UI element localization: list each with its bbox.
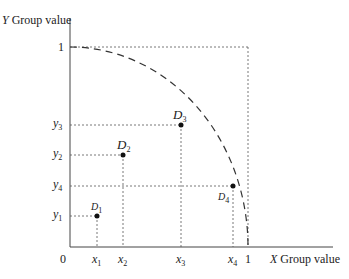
x2-sub: 2 [123,259,127,268]
y3-label: y3 [53,117,62,134]
d1-sub: 1 [98,206,102,215]
y1-label: y1 [53,208,62,225]
d2-name: D [117,137,126,152]
d2-label: D2 [117,139,130,156]
d4-point [231,184,236,189]
x1-label: x1 [92,253,101,270]
d3-label: D3 [173,109,186,126]
d1-label: D1 [91,201,102,217]
x-axis-text: Group value [277,252,340,266]
d2-sub: 2 [126,145,130,154]
d4-sub: 4 [225,196,229,205]
x2-label: x2 [118,253,127,270]
x-one-label: 1 [245,253,251,265]
y4-sub: 4 [58,184,62,193]
d3-sub: 3 [182,115,186,124]
d3-name: D [173,107,182,122]
origin-label: 0 [60,253,66,265]
y4-label: y4 [53,178,62,195]
y1-sub: 1 [58,214,62,223]
x1-sub: 1 [97,259,101,268]
x3-sub: 3 [181,259,185,268]
y2-label: y2 [53,147,62,164]
y-one-label: 1 [58,41,64,53]
y-axis-var: Y [2,13,9,27]
x4-label: x4 [228,253,237,270]
y-axis-title: Y Group value [2,14,71,26]
diagram-canvas [0,0,349,279]
x4-sub: 4 [233,259,237,268]
y2-sub: 2 [58,153,62,162]
x3-label: x3 [176,253,185,270]
x-axis-title: X Group value [270,253,340,265]
d4-label: D4 [218,191,229,207]
y-axis-text: Group value [9,13,72,27]
y3-sub: 3 [58,123,62,132]
